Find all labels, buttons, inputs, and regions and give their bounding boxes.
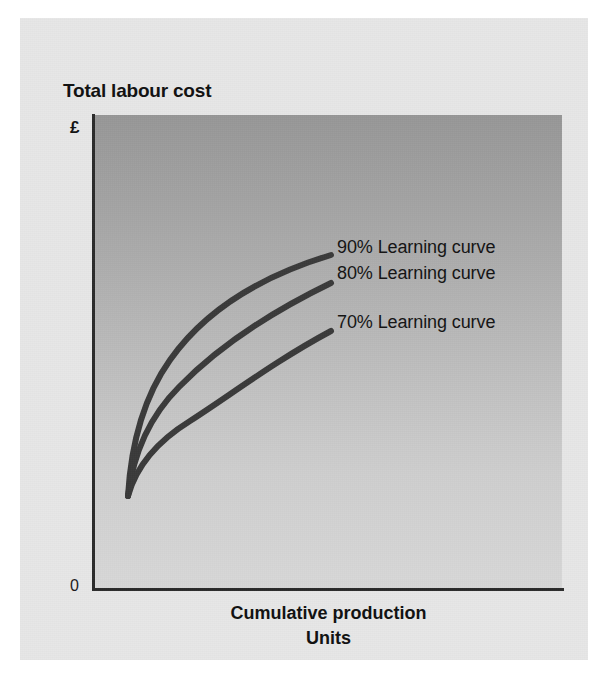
- y-axis-unit-label: £: [70, 118, 79, 138]
- x-axis-line: [92, 588, 564, 591]
- x-axis-title-line-2: Units: [95, 626, 562, 651]
- chart-title: Total labour cost: [63, 80, 211, 102]
- plot-area: [95, 115, 562, 588]
- learning-curves-svg: [95, 115, 562, 588]
- figure-card: Total labour cost £ 0 90% Learning curve…: [20, 18, 588, 660]
- x-axis-title-line-1: Cumulative production: [95, 601, 562, 626]
- x-axis-title: Cumulative production Units: [95, 601, 562, 651]
- figure-root: Total labour cost £ 0 90% Learning curve…: [0, 0, 614, 680]
- y-axis-zero-label: 0: [70, 577, 79, 595]
- curve-label-90-percent: 90% Learning curve: [337, 237, 495, 258]
- y-axis-line: [92, 114, 95, 591]
- curve-label-70-percent: 70% Learning curve: [337, 312, 495, 333]
- curve-80-percent: [128, 283, 331, 496]
- curve-90-percent: [128, 255, 331, 496]
- curve-label-80-percent: 80% Learning curve: [337, 263, 495, 284]
